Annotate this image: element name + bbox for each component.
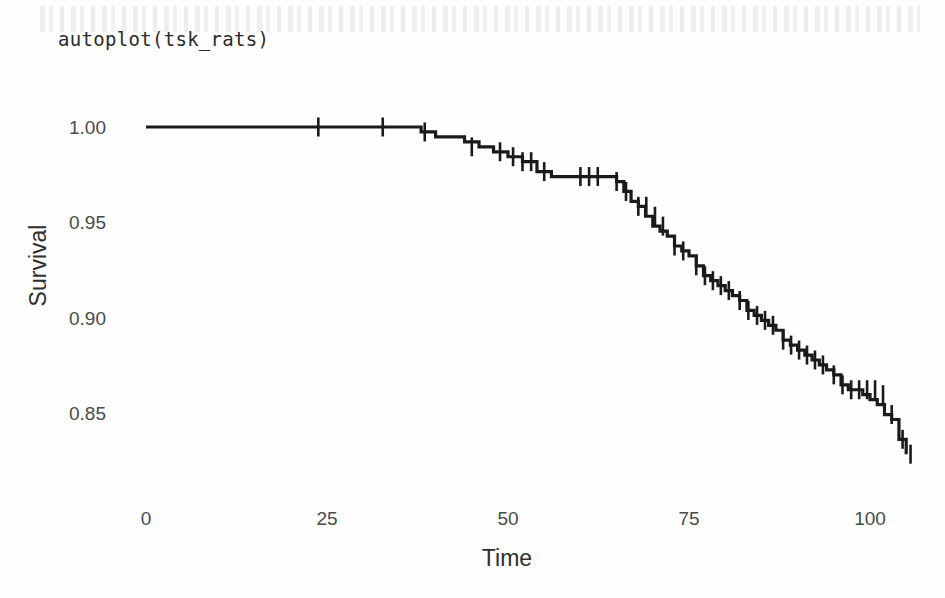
x-tick-label: 75 xyxy=(649,508,729,530)
censor-marks-group xyxy=(318,118,910,464)
survival-step-line xyxy=(146,127,906,454)
plot-area: 1.00 0.95 0.90 0.85 0 25 50 75 100 Survi… xyxy=(0,0,945,598)
x-tick-label: 0 xyxy=(106,508,186,530)
y-tick-label: 0.85 xyxy=(36,403,106,425)
y-tick-label: 1.00 xyxy=(36,117,106,139)
x-axis-title: Time xyxy=(432,545,582,572)
step-path xyxy=(146,127,906,454)
x-tick-label: 50 xyxy=(468,508,548,530)
x-tick-label: 25 xyxy=(287,508,367,530)
plot-page: autoplot(tsk_rats) 1.00 0.95 0.90 0.85 0… xyxy=(0,0,945,598)
x-tick-label: 100 xyxy=(830,508,910,530)
y-axis-title: Survival xyxy=(25,206,52,326)
